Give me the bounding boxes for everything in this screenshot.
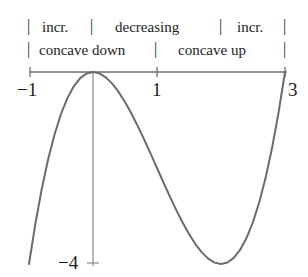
x-axis-label-minus1: −1	[17, 80, 37, 99]
row1-divider-right: |	[283, 18, 286, 34]
cubic-curve-path	[29, 72, 285, 264]
row1-label-decreasing: decreasing	[115, 20, 179, 35]
x-axis-label-3: 3	[288, 80, 298, 99]
row2-divider-left: |	[27, 41, 30, 57]
row1-divider-mid-left: |	[90, 18, 93, 34]
row2-divider-right: |	[283, 41, 286, 57]
row1-label-incr-left: incr.	[42, 20, 68, 35]
row2-label-concave-up: concave up	[178, 43, 246, 58]
row1-divider-left: |	[27, 18, 30, 34]
row2-label-concave-down: concave down	[39, 43, 125, 58]
row1-divider-mid-right: |	[219, 18, 222, 34]
row1-label-incr-right: incr.	[237, 20, 263, 35]
calculus-curve-figure: | incr. | decreasing | incr. | | concave…	[0, 0, 308, 277]
x-axis-label-1: 1	[152, 80, 162, 99]
row2-divider-mid: |	[154, 41, 157, 57]
y-axis-label-minus4: −4	[58, 253, 78, 272]
